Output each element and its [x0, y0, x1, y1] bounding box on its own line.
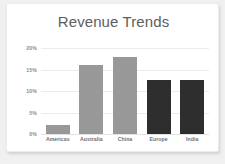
- x-axis-tick-label-australia: Australia: [75, 136, 109, 142]
- y-axis-tick-label: 20%: [26, 45, 37, 51]
- x-axis-tick-label-americas: Americas: [41, 136, 75, 142]
- bar-china[interactable]: [113, 57, 137, 134]
- bar-americas[interactable]: [46, 125, 70, 134]
- chart-card: Revenue Trends 20%15%10%5%0% AmericasAus…: [6, 3, 219, 152]
- y-axis-tick-label: 0%: [29, 131, 37, 137]
- plot-area: 20%15%10%5%0% AmericasAustraliaChinaEuro…: [41, 48, 209, 134]
- x-axis-tick-label-china: China: [108, 136, 142, 142]
- x-axis-tick-label-india: India: [175, 136, 209, 142]
- y-axis-tick-label: 15%: [26, 67, 37, 73]
- bar-india[interactable]: [180, 80, 204, 134]
- y-axis-tick-label: 10%: [26, 88, 37, 94]
- chart-title: Revenue Trends: [7, 13, 219, 30]
- bar-europe[interactable]: [147, 80, 171, 134]
- bar-series: [41, 48, 209, 134]
- x-axis-tick-label-europe: Europe: [142, 136, 176, 142]
- bar-australia[interactable]: [79, 65, 103, 134]
- x-axis-baseline: [41, 134, 209, 135]
- y-axis-tick-label: 5%: [29, 110, 37, 116]
